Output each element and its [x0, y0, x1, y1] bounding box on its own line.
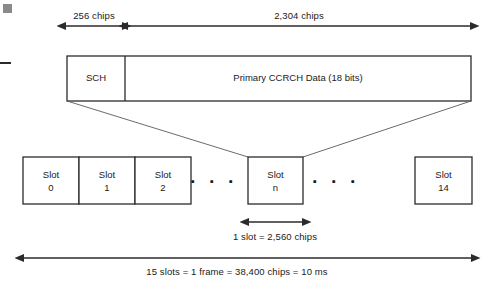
expansion-connectors [67, 101, 471, 157]
diagram-vector-layer [0, 0, 497, 289]
frame-structure-diagram: 256 chips 2,304 chips SCH Primary CCRCH … [0, 0, 497, 289]
slot-2-name: Slot [135, 168, 191, 181]
slot-1-name: Slot [79, 168, 135, 181]
slot-14-index: 14 [415, 181, 472, 194]
ccrch-data-field-label: Primary CCRCH Data (18 bits) [125, 72, 471, 84]
frame-width-label: 15 slots = 1 frame = 38,400 chips = 10 m… [146, 266, 327, 277]
slot-ellipsis-right: ▪ ▪ ▪ [313, 176, 361, 187]
data-span-label: 2,304 chips [274, 10, 324, 21]
slot-ellipsis-left: ▪ ▪ ▪ [191, 176, 239, 187]
sch-span-label: 256 chips [73, 10, 115, 21]
slot-n-name: Slot [248, 168, 303, 181]
slot-n-index: n [248, 181, 303, 194]
slot-0-index: 0 [23, 181, 79, 194]
slot-1-index: 1 [79, 181, 135, 194]
slot-14-name: Slot [415, 168, 472, 181]
slot-0-name: Slot [23, 168, 79, 181]
slot-width-label: 1 slot = 2,560 chips [233, 231, 317, 242]
sch-field-label: SCH [67, 72, 125, 84]
slot-2-index: 2 [135, 181, 191, 194]
